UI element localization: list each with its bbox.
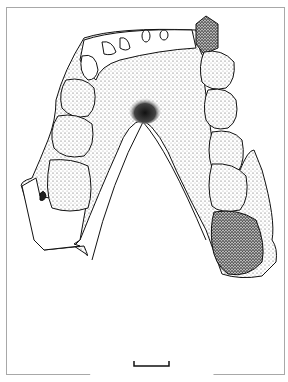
tooth-left-m1 [47,160,91,211]
tooth-right-p3 [200,51,234,89]
tooth-left-p3 [61,79,95,117]
tooth-canine-right [196,16,218,54]
tooth-left-p4 [52,115,93,157]
mandible-illustration [0,0,288,382]
tooth-right-m3 [211,211,263,275]
tooth-right-p4 [204,89,237,129]
